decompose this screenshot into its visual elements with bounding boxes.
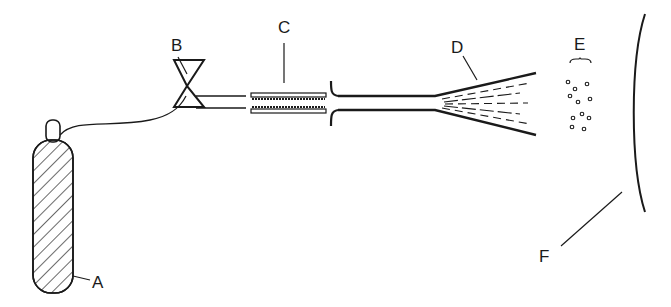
label-b: B [171, 36, 182, 55]
nozzle-inlet-upper [331, 81, 338, 96]
curved-screen [634, 14, 645, 212]
apparatus-diagram: A B C D [0, 0, 671, 307]
label-d: D [451, 38, 463, 57]
lower-plate [251, 109, 326, 113]
screen-f: F [539, 14, 645, 266]
valve-top-triangle [174, 60, 204, 86]
nozzle-d: D [331, 38, 536, 135]
upper-plate [251, 93, 326, 97]
nozzle-upper-wall [338, 73, 536, 96]
brace-e [570, 58, 591, 63]
gas-hose [60, 96, 186, 135]
spray-lines [442, 83, 530, 124]
label-c: C [278, 18, 290, 37]
leader-d [463, 56, 477, 80]
nozzle-inlet-lower [331, 110, 338, 126]
particles-e: E [566, 35, 592, 131]
gas-cylinder-a: A [33, 120, 104, 293]
nozzle-lower-wall [338, 110, 536, 135]
plates-c: C [251, 18, 326, 113]
label-f: F [539, 247, 549, 266]
cylinder-neck [46, 120, 60, 142]
cylinder-hatching [33, 140, 73, 293]
label-e: E [574, 35, 585, 54]
label-a: A [92, 273, 104, 292]
leader-a [73, 276, 90, 280]
particle-dots [566, 80, 592, 131]
leader-f [561, 192, 622, 246]
